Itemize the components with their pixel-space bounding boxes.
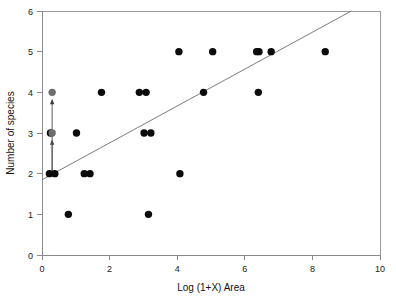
data-point (175, 48, 182, 55)
y-tick-label: 3 (28, 129, 33, 139)
chart-canvas: 6 5 4 3 2 1 0 0 2 4 6 8 10 Log (1+X) Ar (0, 0, 396, 301)
y-tick-label: 6 (28, 7, 33, 17)
x-tick-label: 2 (107, 264, 112, 274)
x-axis-ticks (42, 255, 380, 260)
data-point (98, 89, 105, 96)
data-point (145, 211, 152, 218)
data-point (86, 170, 93, 177)
data-points-observations (46, 48, 329, 218)
data-point (48, 89, 55, 96)
y-axis-tick-labels: 6 5 4 3 2 1 0 (28, 7, 33, 261)
data-point (65, 211, 72, 218)
x-tick-label: 0 (39, 264, 44, 274)
y-tick-label: 1 (28, 210, 33, 220)
data-point (209, 48, 216, 55)
data-point (147, 129, 154, 136)
scatter-plot-figure: 6 5 4 3 2 1 0 0 2 4 6 8 10 Log (1+X) Ar (0, 0, 396, 301)
data-point (255, 48, 262, 55)
data-point (200, 89, 207, 96)
annotation-arrow-head (50, 99, 54, 104)
x-tick-label: 6 (242, 264, 247, 274)
data-point (255, 89, 262, 96)
plot-frame (42, 11, 380, 255)
data-point (322, 48, 329, 55)
data-point (51, 170, 58, 177)
data-point (267, 48, 274, 55)
y-axis-ticks (37, 11, 42, 255)
y-tick-label: 4 (28, 88, 33, 98)
x-axis-title: Log (1+X) Area (177, 282, 245, 293)
y-tick-label: 2 (28, 169, 33, 179)
x-axis-tick-labels: 0 2 4 6 8 10 (39, 264, 385, 274)
data-point (48, 129, 55, 136)
data-point (73, 129, 80, 136)
y-tick-label: 0 (28, 251, 33, 261)
x-tick-label: 8 (310, 264, 315, 274)
data-point (136, 89, 143, 96)
y-tick-label: 5 (28, 47, 33, 57)
regression-line (42, 11, 351, 180)
x-tick-label: 4 (175, 264, 180, 274)
data-point (142, 89, 149, 96)
y-axis-title: Number of species (5, 91, 16, 174)
x-tick-label: 10 (375, 264, 385, 274)
data-point (140, 129, 147, 136)
data-point (176, 170, 183, 177)
